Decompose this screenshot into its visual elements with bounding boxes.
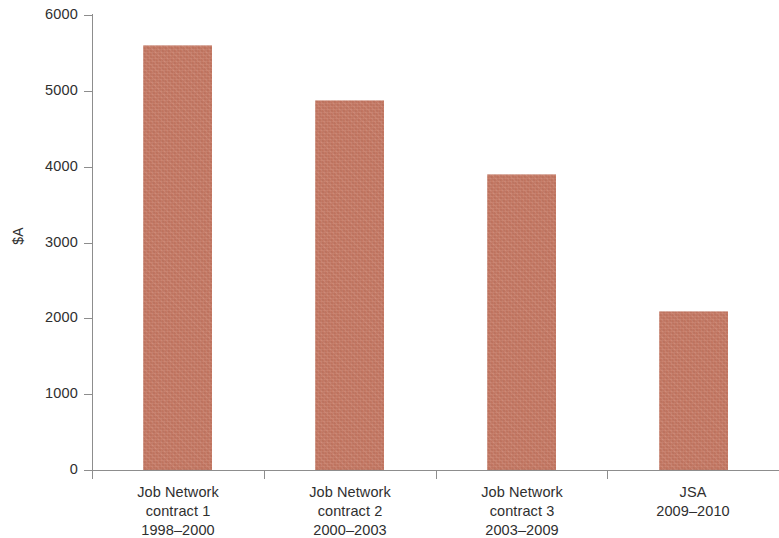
y-axis-tick: 2000: [0, 318, 92, 319]
y-axis-tick-label: 5000: [45, 82, 78, 98]
bar-chart: $A 6000500040003000200010000 Job Network…: [0, 0, 779, 538]
y-axis-tick: 0: [0, 470, 92, 471]
y-axis-tick-mark: [84, 318, 92, 319]
y-axis-tick-label: 4000: [45, 158, 78, 174]
bar: [315, 100, 384, 470]
y-axis-tick-label: 6000: [45, 6, 78, 22]
x-axis-category-label-line: contract 1: [92, 502, 264, 521]
y-axis-tick-mark: [84, 243, 92, 244]
x-axis-category-label-line: 2009–2010: [607, 502, 779, 521]
y-axis-tick: 1000: [0, 394, 92, 395]
x-axis-category-label-line: JSA: [607, 483, 779, 502]
x-axis-category-label: Job Networkcontract 11998–2000: [92, 483, 264, 538]
y-axis-title: $A: [10, 206, 26, 266]
y-axis-line: [92, 14, 93, 471]
x-axis-category-label-line: 2003–2009: [436, 521, 608, 538]
x-axis-category-label: Job Networkcontract 22000–2003: [264, 483, 436, 538]
x-axis-category-label: JSA2009–2010: [607, 483, 779, 521]
y-axis-tick-label: 0: [70, 461, 78, 477]
y-axis-tick-mark: [84, 91, 92, 92]
x-axis-line: [85, 470, 779, 471]
y-axis-tick-mark: [84, 15, 92, 16]
y-axis-tick-label: 3000: [45, 234, 78, 250]
x-axis-category-label-line: 1998–2000: [92, 521, 264, 538]
y-axis-tick-mark: [84, 470, 92, 471]
bar: [143, 45, 212, 470]
x-axis-category-label-line: contract 2: [264, 502, 436, 521]
y-axis-tick: 5000: [0, 91, 92, 92]
y-axis-tick-label: 2000: [45, 309, 78, 325]
x-axis-category-label: Job Networkcontract 32003–2009: [436, 483, 608, 538]
x-axis-tick-mark: [264, 470, 265, 479]
x-axis-tick-mark: [436, 470, 437, 479]
x-axis-tick-mark: [92, 470, 93, 479]
y-axis-tick: 6000: [0, 15, 92, 16]
y-axis-tick-label: 1000: [45, 385, 78, 401]
y-axis-tick-mark: [84, 394, 92, 395]
x-axis-category-label-line: Job Network: [264, 483, 436, 502]
x-axis-category-label-line: contract 3: [436, 502, 608, 521]
bar: [487, 174, 556, 470]
x-axis-category-label-line: Job Network: [92, 483, 264, 502]
x-axis-tick-mark: [607, 470, 608, 479]
bar: [659, 311, 728, 470]
y-axis-tick: 3000: [0, 243, 92, 244]
x-axis-category-label-line: Job Network: [436, 483, 608, 502]
x-axis-category-label-line: 2000–2003: [264, 521, 436, 538]
y-axis-tick: 4000: [0, 167, 92, 168]
y-axis-tick-mark: [84, 167, 92, 168]
